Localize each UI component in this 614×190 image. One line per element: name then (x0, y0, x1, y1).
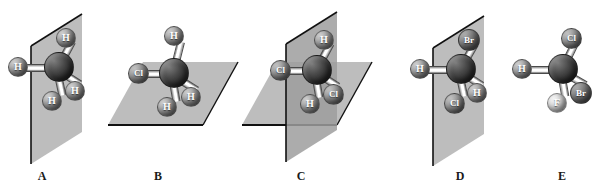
atom-hydrogen-top: H (164, 26, 184, 46)
atom-hydrogen-left: H (8, 57, 28, 77)
atom-hydrogen-lower-right: H (65, 81, 85, 101)
atom-carbon: C (159, 58, 189, 88)
atom-hydrogen-top: H (314, 30, 334, 50)
molecule-ch2cl2: C H Cl Cl H (232, 0, 400, 190)
atom-chlorine-bottom: Cl (444, 93, 465, 114)
atom-hydrogen-bottom: H (42, 91, 62, 111)
atom-carbon: C (548, 54, 578, 84)
panel-caption-c: C (289, 169, 313, 184)
panel-caption-b: B (146, 169, 170, 184)
atom-bromine-top: Br (458, 29, 480, 51)
atom-carbon: C (302, 55, 332, 85)
atom-chlorine-left: Cl (128, 63, 149, 84)
panel-c: C H Cl Cl H C (232, 0, 400, 190)
atom-hydrogen-left: H (410, 59, 430, 79)
symmetry-plane-figure: C H H H H A C H Cl H H B (0, 0, 614, 190)
molecule-chfclbr: C Cl H Br F (500, 0, 614, 190)
atom-hydrogen-bottom: H (157, 97, 177, 117)
panel-caption-d: D (448, 169, 472, 184)
atom-hydrogen-lower-right: H (467, 83, 487, 103)
atom-chlorine-top: Cl (561, 28, 582, 49)
panel-d: C Br H H Cl D (396, 0, 516, 190)
atom-hydrogen-left: H (512, 59, 532, 79)
atom-carbon: C (446, 54, 476, 84)
molecule-ch2brcl: C Br H H Cl (396, 0, 516, 190)
panel-e: C Cl H Br F E (500, 0, 614, 190)
atom-fluorine-bottom: F (547, 93, 567, 113)
atom-carbon: C (44, 52, 74, 82)
atom-chlorine-left: Cl (270, 60, 291, 81)
atom-bromine-lower-right: Br (570, 82, 592, 104)
atom-hydrogen-lower-right: H (181, 87, 201, 107)
atom-hydrogen-bottom: H (300, 94, 320, 114)
atom-chlorine-lower-right: Cl (323, 84, 344, 105)
panel-caption-e: E (550, 169, 574, 184)
atom-hydrogen-top: H (56, 28, 76, 48)
panel-caption-a: A (30, 169, 54, 184)
